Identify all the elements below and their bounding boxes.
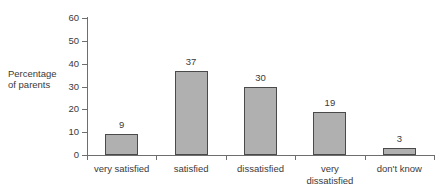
plot-area: 0102030405060 93730193: [87, 18, 434, 155]
y-axis-label-line-1: Percentage: [8, 68, 80, 79]
bar: [105, 134, 138, 155]
bar-value-label: 37: [186, 56, 197, 66]
x-axis-tick: [156, 155, 157, 160]
y-axis-tick: [82, 132, 87, 133]
bar-value-label: 30: [255, 72, 266, 82]
x-axis-category-label: don't know: [354, 163, 441, 175]
y-axis-tick-label: 30: [68, 82, 79, 92]
bar: [313, 112, 346, 155]
bar: [383, 148, 416, 155]
y-axis-tick: [82, 64, 87, 65]
y-axis-tick: [82, 18, 87, 19]
x-axis-line: [87, 155, 434, 156]
y-axis-tick: [82, 87, 87, 88]
y-axis-tick-label: 40: [68, 59, 79, 69]
y-axis-tick-label: 60: [68, 13, 79, 23]
x-axis-tick: [365, 155, 366, 160]
x-axis-tick: [226, 155, 227, 160]
clipped-caption-text: [0, 0, 441, 2]
y-axis-tick: [82, 109, 87, 110]
y-axis-tick-label: 50: [68, 36, 79, 46]
bar: [244, 87, 277, 156]
y-axis-tick-label: 0: [74, 150, 79, 160]
x-axis-category-label-line: don't know: [354, 163, 441, 175]
x-axis-tick: [87, 155, 88, 160]
y-axis-tick: [82, 41, 87, 42]
x-axis-category-label-line: dissatisfied: [285, 175, 375, 187]
x-axis-tick: [295, 155, 296, 160]
bar-chart: Percentage of parents 0102030405060 9373…: [0, 0, 441, 196]
bar-value-label: 3: [397, 134, 402, 144]
y-axis-tick-label: 20: [68, 105, 79, 115]
bar: [175, 71, 208, 155]
bar-value-label: 19: [325, 97, 336, 107]
x-axis-tick: [434, 155, 435, 160]
bar-value-label: 9: [119, 120, 124, 130]
y-axis-tick-label: 10: [68, 127, 79, 137]
